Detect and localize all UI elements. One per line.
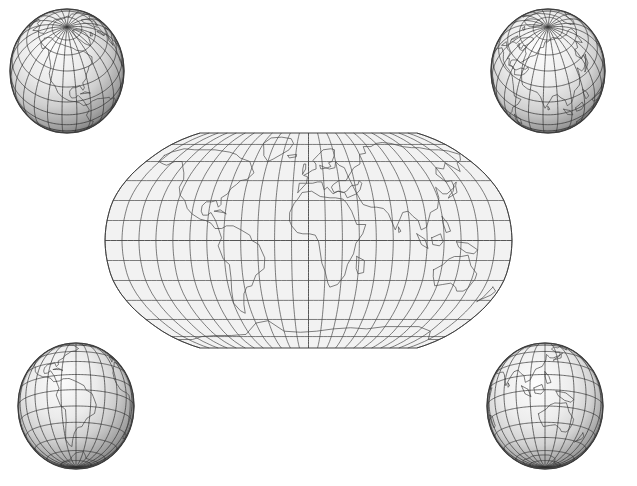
figure-canvas [0,0,637,486]
world-map-robinson [105,133,512,348]
world-projection-figure [0,0,637,486]
globe-eurasia [491,9,605,133]
globe-content [18,343,134,469]
globe-australia [487,343,603,469]
globe-content [487,343,603,469]
globe-north-america [10,9,124,133]
globe-south-america [18,343,134,469]
